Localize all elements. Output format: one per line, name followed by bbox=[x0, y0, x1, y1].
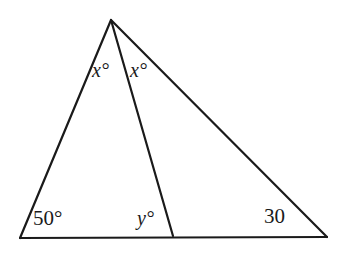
angle-label-x-left: x° bbox=[92, 60, 109, 80]
triangle-base bbox=[20, 237, 327, 238]
angle-label-x-right: x° bbox=[130, 60, 147, 80]
angle-label-y: y° bbox=[137, 208, 154, 228]
geometry-figure: x° x° 50° y° 30 bbox=[0, 0, 346, 255]
angle-label-30: 30 bbox=[264, 206, 285, 227]
angle-label-50-degrees: 50° bbox=[33, 208, 62, 229]
triangle-right-side bbox=[111, 20, 327, 237]
